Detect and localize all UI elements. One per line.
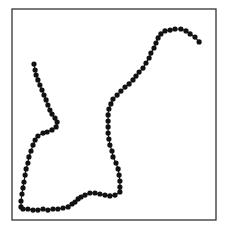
data-point	[112, 193, 117, 198]
data-point	[127, 81, 132, 86]
data-point	[37, 82, 42, 87]
data-point	[113, 160, 118, 165]
data-point	[39, 87, 44, 92]
data-point	[92, 190, 97, 195]
data-point	[34, 72, 39, 77]
data-point	[44, 97, 49, 102]
data-point	[20, 206, 25, 211]
data-point	[110, 154, 115, 159]
data-point	[25, 160, 30, 165]
data-point	[153, 40, 158, 45]
data-point	[162, 28, 167, 33]
data-point	[97, 191, 102, 196]
data-point	[33, 137, 38, 142]
data-point	[197, 39, 202, 44]
data-point	[108, 101, 113, 106]
data-point	[143, 60, 148, 65]
data-point	[45, 102, 50, 107]
data-point	[118, 89, 123, 94]
data-point	[55, 120, 60, 125]
data-point	[28, 148, 33, 153]
data-point	[31, 62, 36, 67]
data-point	[40, 131, 45, 136]
data-point	[45, 208, 50, 213]
data-point	[107, 193, 112, 198]
data-point	[35, 208, 40, 213]
data-point	[30, 143, 35, 148]
data-point	[117, 185, 122, 190]
data-point	[82, 193, 87, 198]
data-point	[168, 28, 173, 33]
data-point	[147, 55, 152, 60]
data-point	[26, 154, 31, 159]
data-point	[148, 51, 153, 56]
data-point	[18, 198, 23, 203]
data-point	[137, 70, 142, 75]
data-point	[117, 189, 122, 194]
data-point	[102, 193, 107, 198]
data-point	[140, 66, 145, 71]
data-point	[106, 131, 111, 136]
data-point	[23, 173, 28, 178]
data-point	[116, 166, 121, 171]
data-point	[40, 206, 45, 211]
data-point	[188, 31, 193, 36]
data-point	[33, 67, 38, 72]
data-point	[117, 173, 122, 178]
data-point	[25, 206, 30, 211]
data-point	[122, 85, 127, 90]
data-point	[87, 190, 92, 195]
data-point	[109, 148, 114, 153]
data-point	[151, 45, 156, 50]
data-point	[35, 77, 40, 82]
data-point	[106, 112, 111, 117]
data-point	[30, 208, 35, 213]
data-point	[60, 205, 65, 210]
data-point	[106, 136, 111, 141]
data-point	[50, 206, 55, 211]
data-point	[115, 93, 120, 98]
data-point	[110, 97, 115, 102]
data-point	[192, 35, 197, 40]
data-point	[20, 185, 25, 190]
data-point	[19, 191, 24, 196]
trajectory-plot	[0, 0, 228, 231]
data-point	[106, 118, 111, 123]
data-point	[172, 26, 177, 31]
data-point	[106, 124, 111, 129]
data-point	[106, 106, 111, 111]
data-point	[178, 26, 183, 31]
data-point	[49, 127, 54, 132]
data-point	[107, 143, 112, 148]
data-point	[21, 179, 26, 184]
data-point	[117, 178, 122, 183]
data-point	[55, 206, 60, 211]
data-point	[24, 166, 29, 171]
data-point	[41, 93, 46, 98]
